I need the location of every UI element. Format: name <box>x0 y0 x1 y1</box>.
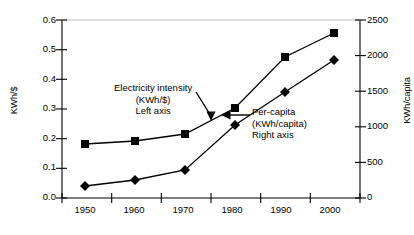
marker-square-1960 <box>131 137 139 145</box>
marker-square-1970 <box>181 130 189 138</box>
marker-square-1980 <box>231 104 239 112</box>
marker-square-1950 <box>81 140 89 148</box>
series-electricity-intensity-markers <box>81 29 338 148</box>
series-electricity-intensity-line <box>85 33 334 144</box>
marker-square-2000 <box>330 29 338 37</box>
series-per-capita-line <box>85 60 334 186</box>
annotation-arrow-electricity-intensity <box>196 92 216 121</box>
marker-square-1990 <box>281 53 289 61</box>
plot-area <box>0 0 414 235</box>
chart-container: KWh/$ KWh/capita 0.6 0.5 0.4 0.3 0.2 0.1… <box>0 0 414 235</box>
series-per-capita-markers <box>80 55 339 191</box>
marker-diamond-1960 <box>130 175 140 185</box>
marker-diamond-1950 <box>80 181 90 191</box>
marker-diamond-2000 <box>329 55 339 65</box>
marker-diamond-1990 <box>280 87 290 97</box>
